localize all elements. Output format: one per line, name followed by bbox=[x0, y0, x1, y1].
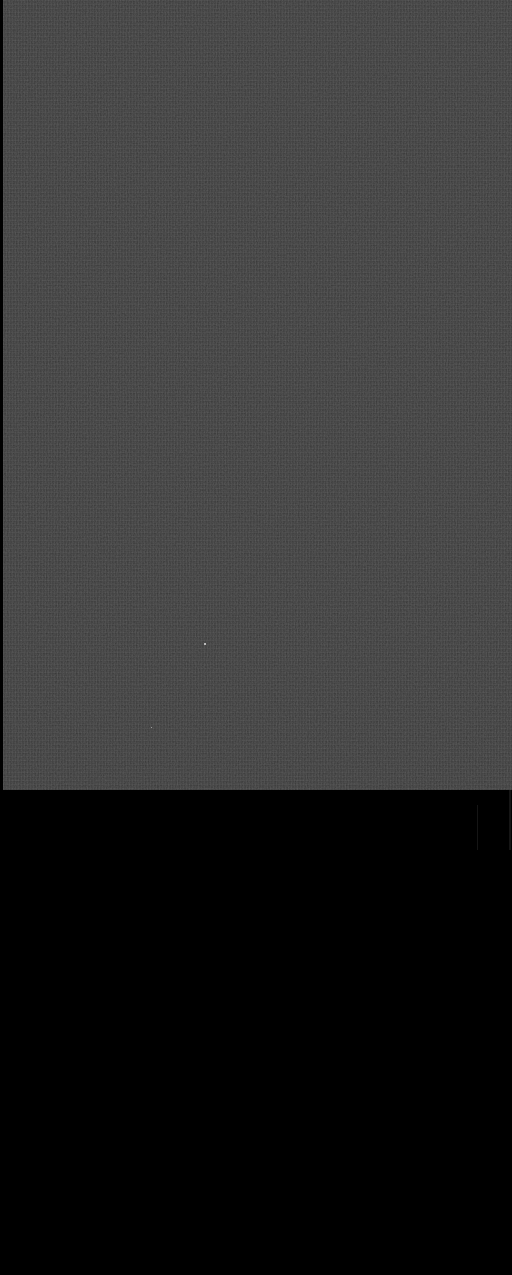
edge-line bbox=[477, 805, 478, 850]
noise-texture bbox=[3, 0, 512, 790]
speck bbox=[151, 727, 152, 728]
edge-line bbox=[509, 790, 511, 850]
noise-panel bbox=[3, 0, 512, 790]
speck bbox=[204, 643, 206, 645]
